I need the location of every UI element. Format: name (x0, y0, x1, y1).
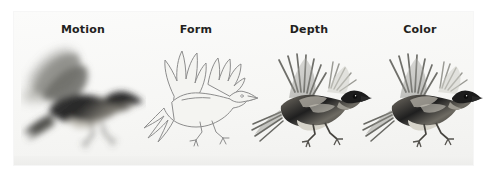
figure-container: Motion Form Depth Color (0, 0, 487, 179)
bird-image-motion (21, 40, 146, 158)
bird-image-depth (247, 40, 372, 158)
bird-image-color (358, 40, 483, 158)
bird-image-form (134, 40, 259, 158)
